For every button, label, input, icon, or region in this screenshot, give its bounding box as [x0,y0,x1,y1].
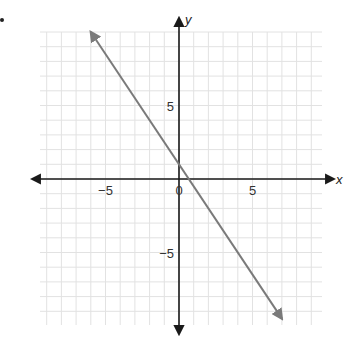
y-axis-label: y [184,12,193,27]
plotted-line [91,32,282,319]
y-tick-label: 5 [167,99,174,114]
coordinate-plane: −5055−5 x y [0,0,346,343]
x-tick-label: −5 [98,183,113,198]
y-tick-label: −5 [159,246,174,261]
axes [32,18,334,334]
x-tick-label: 0 [175,183,182,198]
x-tick-label: 5 [249,183,256,198]
series-line [91,32,282,319]
x-axis-label: x [335,172,343,187]
